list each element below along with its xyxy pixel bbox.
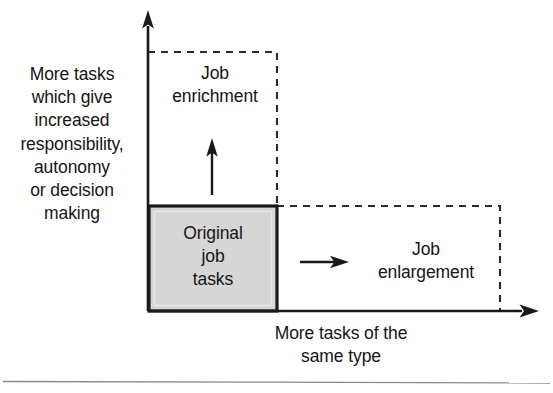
x-axis-label: More tasks of the same type [228, 322, 454, 368]
job-enrichment-label: Job enrichment [155, 62, 275, 108]
enrichment-growth-arrow [206, 138, 217, 195]
job-enlargement-label: Job enlargement [352, 238, 500, 284]
enlargement-growth-arrow [300, 256, 349, 268]
bottom-divider [3, 382, 550, 384]
original-job-tasks-label: Original job tasks [150, 222, 276, 292]
arrow-right-icon [520, 305, 540, 318]
diagram-figure: More tasks which give increased responsi… [0, 0, 553, 393]
arrow-up-icon [142, 10, 154, 29]
y-axis-label: More tasks which give increased responsi… [4, 63, 140, 225]
